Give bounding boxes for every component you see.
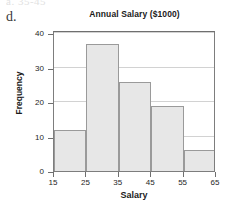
x-axis-tick <box>183 172 184 177</box>
histogram-bar <box>151 106 183 171</box>
x-axis-tick-label: 65 <box>203 178 227 187</box>
y-axis-tick <box>48 34 53 35</box>
y-axis-tick-label: 0 <box>18 167 44 176</box>
x-axis-tick-label: 15 <box>41 178 65 187</box>
x-axis-tick <box>215 172 216 177</box>
histogram-figure: Annual Salary ($1000) 010203040 15253545… <box>0 0 237 210</box>
histogram-bar <box>86 44 118 171</box>
x-axis-tick <box>85 172 86 177</box>
x-axis-tick-label: 35 <box>106 178 130 187</box>
gridline-y-40 <box>54 32 214 33</box>
y-axis-tick-label: 10 <box>18 133 44 142</box>
x-axis-tick <box>53 172 54 177</box>
x-axis-tick <box>150 172 151 177</box>
histogram-bar <box>119 82 151 171</box>
y-axis-tick <box>48 69 53 70</box>
x-axis-tick-label: 25 <box>73 178 97 187</box>
histogram-bar <box>54 130 86 171</box>
histogram-bar <box>184 150 215 171</box>
gridline-y-30 <box>54 67 214 68</box>
x-axis-title: Salary <box>53 190 215 200</box>
y-axis-title: Frequency <box>14 63 24 123</box>
plot-area <box>53 31 215 172</box>
x-axis-tick-label: 55 <box>171 178 195 187</box>
y-axis-tick-label: 40 <box>18 29 44 38</box>
y-axis-tick <box>48 138 53 139</box>
y-axis-tick <box>48 103 53 104</box>
x-axis-tick-label: 45 <box>138 178 162 187</box>
chart-title: Annual Salary ($1000) <box>53 9 216 19</box>
x-axis-tick <box>118 172 119 177</box>
